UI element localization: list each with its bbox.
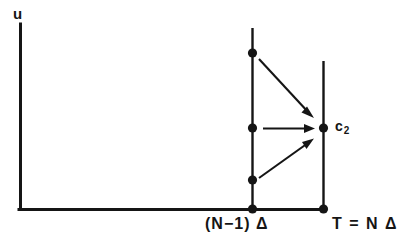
arrow-from-top-point bbox=[259, 59, 314, 118]
target-point-label: c2 bbox=[335, 119, 349, 133]
target-label-base: c bbox=[335, 118, 343, 134]
tick-label-n-minus-1: (N−1) Δ bbox=[205, 216, 268, 232]
y-axis-label: u bbox=[13, 6, 23, 21]
figure-canvas: u c2 (N−1) Δ T = N Δ bbox=[0, 0, 403, 243]
arrow-from-middle-point bbox=[263, 124, 315, 133]
point-left-axis bbox=[248, 204, 257, 213]
point-left-lower bbox=[248, 175, 257, 184]
point-left-top bbox=[248, 48, 257, 57]
tick-label-n: T = N Δ bbox=[332, 216, 398, 232]
point-right-axis bbox=[319, 204, 328, 213]
point-left-middle bbox=[248, 123, 257, 132]
target-label-subscript: 2 bbox=[344, 125, 350, 136]
arrow-from-lower-point bbox=[259, 139, 314, 179]
point-target-c2 bbox=[319, 123, 328, 132]
